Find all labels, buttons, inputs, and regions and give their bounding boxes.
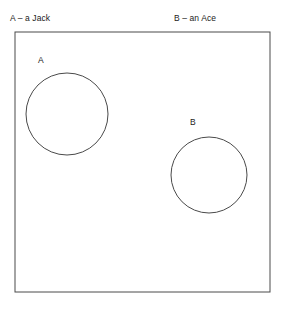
set-label-a: A bbox=[38, 55, 44, 65]
venn-diagram-canvas: A – a Jack B – an Ace A B bbox=[0, 0, 282, 312]
venn-diagram-graphic bbox=[0, 0, 282, 312]
universal-set-rectangle bbox=[15, 32, 270, 292]
set-label-b: B bbox=[190, 117, 196, 127]
set-circle-a bbox=[26, 73, 108, 155]
set-circle-b bbox=[171, 137, 247, 213]
